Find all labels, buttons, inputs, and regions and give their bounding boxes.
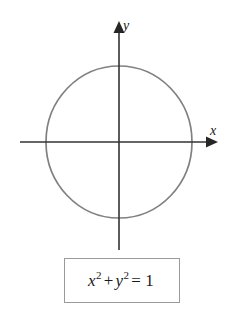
x-axis-arrowhead-icon xyxy=(206,137,218,148)
equation-box: x2+y2=1 xyxy=(64,258,180,303)
equation-var-x: x xyxy=(88,271,96,290)
equation-exponent-x: 2 xyxy=(96,269,102,281)
equation-rhs-value: 1 xyxy=(143,271,156,290)
x-axis-label: x xyxy=(210,124,216,138)
figure-container: y x x2+y2=1 xyxy=(0,0,230,317)
equation-plus-operator: + xyxy=(102,271,116,290)
equation-text: x2+y2=1 xyxy=(88,271,156,291)
equation-equals-operator: = xyxy=(129,271,143,290)
y-axis-label: y xyxy=(123,19,129,33)
